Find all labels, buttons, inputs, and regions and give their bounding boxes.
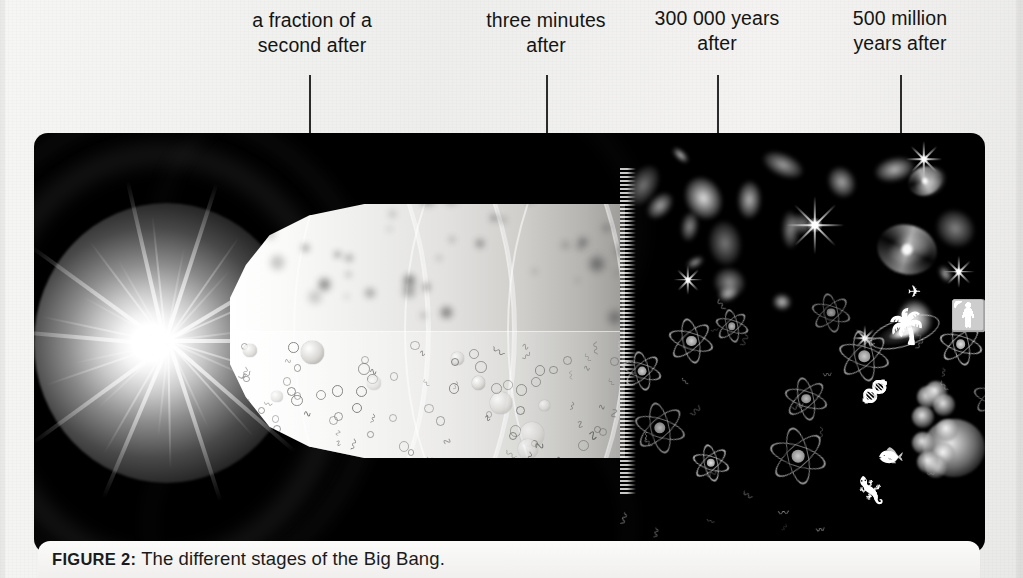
quark-particle	[549, 366, 557, 374]
atom	[973, 377, 985, 417]
energy-blob	[439, 305, 454, 320]
timeline-label-stage-500-million-years: 500 million years after	[824, 6, 976, 56]
quark-particle	[531, 377, 541, 387]
proto-galaxy	[929, 203, 981, 254]
star	[919, 154, 929, 164]
human-figure: 🚹	[950, 301, 985, 331]
energy-squiggle: 〰	[940, 368, 950, 378]
energy-blob	[436, 255, 442, 260]
quark-particle	[408, 449, 414, 455]
quark-particle	[469, 349, 479, 359]
quark-particle	[367, 431, 374, 438]
timeline-label-stage-300000-years: 300 000 years after	[641, 6, 793, 56]
proton-particle	[243, 344, 257, 358]
energy-squiggle: ∿	[583, 363, 591, 373]
energy-squiggle: 〰	[347, 438, 360, 452]
atom-nucleus	[827, 308, 836, 317]
quark-particle	[516, 406, 525, 415]
energy-squiggle: 〰	[651, 527, 663, 539]
proto-galaxy	[670, 146, 689, 165]
quark-particle	[332, 385, 344, 397]
quark-particle	[451, 358, 459, 366]
energy-squiggle: 〰	[737, 332, 754, 349]
atom-nucleus	[801, 394, 811, 404]
energy-squiggle: 〰	[641, 432, 649, 440]
timeline-leader-line-stage-300000-years	[717, 75, 719, 133]
energy-blob	[300, 244, 311, 253]
quark-particle	[272, 415, 279, 422]
energy-blob	[420, 312, 427, 319]
quark-particle	[410, 341, 420, 351]
energy-squiggle: ∿	[369, 367, 378, 377]
energy-squiggle: 〰	[815, 526, 825, 536]
energy-squiggle: 〰	[615, 341, 625, 351]
energy-blob	[422, 281, 431, 293]
energy-squiggle: 〰	[263, 398, 274, 410]
energy-squiggle: 〰	[589, 342, 600, 356]
energy-squiggle: ∿	[283, 355, 293, 367]
quark-particle	[578, 440, 589, 451]
figure-caption-box: FIGURE 2: The different stages of the Bi…	[38, 541, 980, 578]
energy-blob	[531, 269, 537, 275]
energy-squiggle: ∿	[574, 417, 588, 431]
energy-blob	[489, 214, 499, 222]
figure-caption-body: The different stages of the Big Bang.	[141, 548, 445, 569]
quark-particle	[509, 432, 517, 440]
atom-nucleus	[956, 339, 966, 349]
energy-blob	[344, 254, 353, 262]
quark-particle	[389, 414, 397, 422]
cell-lobe	[933, 394, 955, 416]
energy-squiggle: 〰	[419, 378, 432, 391]
fish: 🐟	[877, 444, 904, 466]
energy-squiggle: 〰	[779, 523, 789, 533]
energy-squiggle: ∿	[332, 437, 344, 449]
energy-squiggle: 〰	[520, 350, 534, 364]
quark-particle	[503, 380, 513, 390]
quark-particle	[294, 392, 302, 400]
energy-blob	[577, 235, 589, 249]
quark-particle	[436, 416, 446, 426]
energy-blob	[401, 282, 418, 299]
quark-particle	[361, 356, 369, 364]
energy-squiggle: 〰	[679, 377, 690, 388]
figure-caption-label: FIGURE 2:	[52, 550, 136, 568]
energy-blob	[363, 287, 378, 299]
figure-image-panel: ∿∿〰〰〰〰∿〰〰∿∿〰〰〰∿〰∿∿〰〰〰〰〰∿〰∿〰〰∿∿∿∿〰〰∿〰∿∿∿〰…	[34, 133, 985, 553]
energy-blob	[387, 226, 392, 233]
energy-blob	[388, 209, 397, 219]
energy-squiggle: 〰	[687, 402, 705, 420]
cosmos-field: 〰〰〰〰〰〰〰〰〰〰〰〰〰〰〰〰〰〰〰〰〰〰〰〰〰〰🚹🌴🧬🐟🦎✈	[599, 133, 985, 553]
quark-particle	[424, 404, 433, 413]
quark-particle	[491, 383, 502, 394]
energy-blob	[317, 276, 332, 293]
timeline-leader-line-stage-fraction-of-second	[309, 75, 311, 133]
proton-particle	[472, 376, 486, 390]
atom	[784, 377, 828, 421]
quark-particle	[283, 377, 292, 386]
cell-lobe	[912, 432, 934, 454]
proto-galaxy	[709, 263, 749, 302]
dinosaur: 🦎	[854, 477, 886, 503]
energy-squiggle: 〰	[368, 413, 380, 425]
energy-blob	[475, 238, 485, 249]
energy-squiggle: ∿	[333, 429, 344, 437]
cell-lobe	[936, 419, 958, 441]
dna-helix: 🧬	[861, 381, 888, 403]
quark-particle	[390, 372, 398, 380]
dragonfly: ✈	[908, 284, 921, 300]
energy-blob	[345, 271, 352, 278]
proton-particle	[490, 392, 512, 414]
energy-squiggle: 〰	[617, 511, 632, 526]
energy-squiggle: 〰	[817, 427, 829, 439]
energy-squiggle: 〰	[566, 400, 578, 411]
timeline-leader-line-stage-500-million-years	[900, 75, 902, 133]
figure-caption-text: FIGURE 2: The different stages of the Bi…	[52, 548, 445, 570]
proto-galaxy	[737, 181, 762, 219]
atom	[811, 293, 851, 333]
star	[807, 217, 823, 233]
energy-squiggle: 〰	[565, 370, 576, 380]
energy-blob	[500, 216, 507, 225]
quark-particle	[535, 365, 546, 376]
energy-squiggle: 〰	[777, 507, 789, 519]
proto-galaxy	[759, 146, 807, 183]
